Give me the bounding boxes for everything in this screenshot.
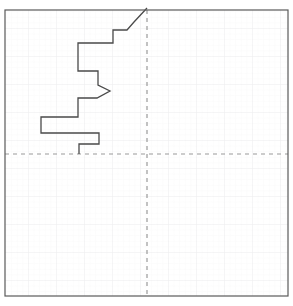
plot-root	[0, 0, 293, 306]
plot-canvas	[0, 0, 293, 306]
